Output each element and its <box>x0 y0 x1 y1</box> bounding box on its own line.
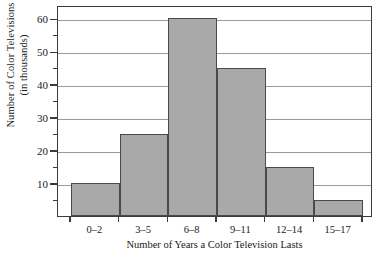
x-tick <box>361 217 362 222</box>
x-tick-label: 6–8 <box>164 224 220 236</box>
bar-series <box>58 7 371 216</box>
x-tick-label: 12–14 <box>261 224 317 236</box>
y-tick-label: 60 <box>8 14 48 25</box>
bar-0-2 <box>71 183 120 216</box>
bar-3-5 <box>120 134 169 216</box>
x-tick <box>264 217 265 222</box>
plot-area <box>57 6 372 217</box>
bar-15-17 <box>314 200 363 216</box>
x-tick-label: 3–5 <box>115 224 171 236</box>
x-tick <box>313 217 314 222</box>
x-tick <box>69 217 70 222</box>
x-tick-label: 0–2 <box>66 224 122 236</box>
y-tick-label: 40 <box>8 80 48 91</box>
x-tick <box>215 217 216 222</box>
x-tick <box>118 217 119 222</box>
bar-12-14 <box>266 167 315 216</box>
y-tick-label: 10 <box>8 179 48 190</box>
y-tick-label: 30 <box>8 113 48 124</box>
bar-6-8 <box>168 18 217 216</box>
x-tick <box>167 217 168 222</box>
x-tick-label: 9–11 <box>212 224 268 236</box>
histogram-figure: Number of Color Televisions (in thousand… <box>0 0 380 257</box>
y-tick-label: 50 <box>8 47 48 58</box>
y-tick-label: 20 <box>8 146 48 157</box>
bar-9-11 <box>217 68 266 216</box>
x-axis-title: Number of Years a Color Television Lasts <box>57 239 372 251</box>
x-tick-label: 15–17 <box>310 224 366 236</box>
